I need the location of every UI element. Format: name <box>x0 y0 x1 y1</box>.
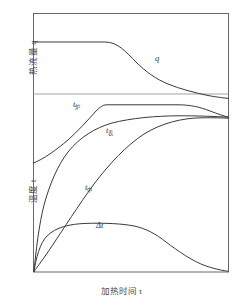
label-furnace-temperature: t炉 <box>73 100 80 109</box>
curve-surface-temperature <box>34 116 229 272</box>
curve-center-temperature <box>34 118 229 272</box>
label-surface-temperature-sub: 表 <box>108 130 113 136</box>
label-heat-flow-q: q <box>155 54 159 63</box>
x-axis-label: 加热时间 τ <box>0 284 243 296</box>
y-axis-label-heat-flow-text: 热流量 q <box>28 40 38 75</box>
label-delta-t: Δt <box>96 221 103 230</box>
figure-container: 热流量 q 温度 t 加热时间 τ q t炉 t表 t中 Δt <box>0 0 243 307</box>
label-center-temperature-sub: 中 <box>87 187 92 193</box>
curve-furnace-temperature <box>34 105 229 163</box>
curve-heat-flow-q <box>34 42 229 98</box>
label-heat-flow-q-text: q <box>155 53 159 63</box>
y-axis-label-temperature-text: 温度 t <box>28 179 38 203</box>
label-delta-t-text: Δt <box>96 220 103 230</box>
x-axis-label-text: 加热时间 τ <box>101 286 143 296</box>
curve-delta-t <box>34 223 229 271</box>
label-surface-temperature: t表 <box>106 126 113 135</box>
label-center-temperature: t中 <box>85 183 92 192</box>
y-axis-label-heat-flow: 热流量 q <box>23 40 39 75</box>
plot-frame <box>34 14 229 273</box>
label-furnace-temperature-sub: 炉 <box>75 104 80 110</box>
y-axis-label-temperature: 温度 t <box>23 179 39 203</box>
